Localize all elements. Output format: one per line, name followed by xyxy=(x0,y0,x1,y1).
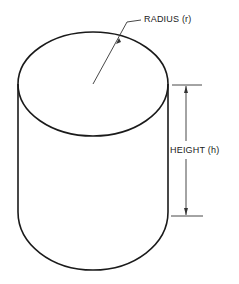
cylinder-bottom-arc xyxy=(18,212,168,270)
cylinder-diagram xyxy=(0,0,239,284)
height-arrowhead-up xyxy=(184,86,188,93)
radius-leader-line xyxy=(93,20,141,84)
radius-label: RADIUS (r) xyxy=(144,14,192,24)
height-label: HEIGHT (h) xyxy=(170,145,219,155)
height-arrowhead-down xyxy=(184,208,188,215)
